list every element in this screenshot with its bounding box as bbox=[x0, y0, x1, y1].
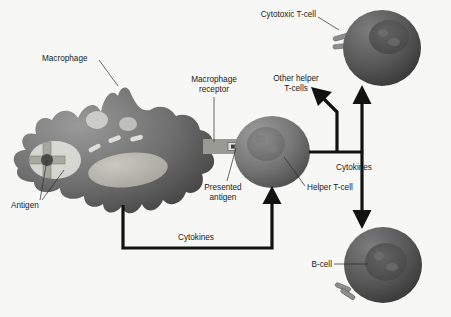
cytotoxic-tcell-nucleus bbox=[369, 20, 409, 54]
nucleus-mottle bbox=[378, 29, 388, 37]
label-macrophage-receptor-line2: receptor bbox=[199, 85, 229, 94]
nucleus-mottle bbox=[266, 145, 278, 153]
label-helper-tcell: Helper T-cell bbox=[307, 183, 353, 192]
label-presented-antigen-line1: Presented bbox=[204, 183, 242, 192]
immunology-diagram: Macrophage Antigen Macrophage receptor P… bbox=[0, 0, 451, 317]
macrophage-vacuole-top bbox=[86, 111, 108, 129]
label-cytokines-bottom: Cytokines bbox=[178, 233, 214, 242]
label-macrophage: Macrophage bbox=[42, 54, 88, 63]
helper-tcell-nucleus bbox=[247, 127, 285, 161]
label-presented-antigen-line2: antigen bbox=[210, 193, 237, 202]
label-antigen: Antigen bbox=[11, 201, 39, 210]
label-cytokines-right: Cytokines bbox=[336, 163, 372, 172]
label-other-helper-line1: Other helper bbox=[273, 74, 319, 83]
macrophage-vacuole-top2 bbox=[119, 117, 137, 131]
nucleus-mottle bbox=[374, 252, 384, 260]
nucleus-mottle bbox=[255, 135, 265, 143]
bcell-nucleus bbox=[365, 243, 407, 281]
label-cytotoxic-tcell: Cytotoxic T-cell bbox=[261, 10, 317, 19]
label-other-helper-line2: T-cells bbox=[284, 84, 308, 93]
nucleus-mottle bbox=[386, 263, 398, 271]
label-bcell: B-cell bbox=[312, 260, 333, 269]
label-macrophage-receptor-line1: Macrophage bbox=[191, 75, 237, 84]
nucleus-mottle bbox=[388, 38, 400, 46]
